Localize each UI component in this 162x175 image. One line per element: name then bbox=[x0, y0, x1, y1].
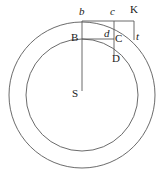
label-d: d bbox=[104, 28, 110, 39]
label-C: C bbox=[115, 33, 122, 44]
label-K: K bbox=[130, 4, 138, 15]
geometry-figure: b c K d C t B D S bbox=[0, 0, 162, 175]
label-b: b bbox=[79, 6, 85, 17]
label-D: D bbox=[112, 53, 120, 64]
figure-canvas bbox=[0, 0, 162, 175]
label-S: S bbox=[72, 88, 78, 99]
label-B: B bbox=[71, 32, 78, 43]
label-c: c bbox=[110, 6, 115, 17]
label-t: t bbox=[136, 31, 139, 42]
